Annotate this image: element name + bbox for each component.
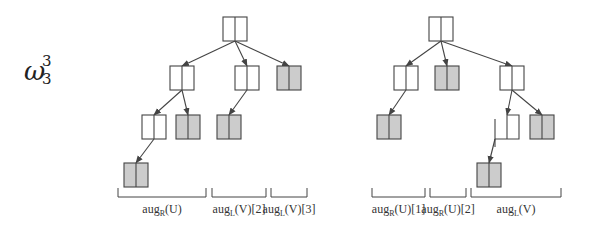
tree-edge-arrow xyxy=(489,139,495,163)
bracket-label-part: aug xyxy=(213,202,230,216)
tree-edge-arrow xyxy=(235,41,289,66)
bracket-label: augR(U)[1] xyxy=(372,202,425,218)
bracket-label: augR(U) xyxy=(142,202,181,218)
bracket-label: augL(V) xyxy=(497,202,536,218)
bracket-label-part: (U)[2] xyxy=(444,202,475,216)
tree-edge-arrow xyxy=(182,41,235,66)
bracket xyxy=(372,188,425,197)
tree-edge-arrow xyxy=(512,90,542,115)
bracket-label-part: aug xyxy=(372,202,389,216)
bracket xyxy=(212,188,266,197)
tree-edge-arrow xyxy=(441,41,512,66)
tree-edge-arrow xyxy=(136,139,154,163)
tree-edge-arrow xyxy=(406,41,441,66)
bracket xyxy=(430,188,466,197)
bracket-label: augL(V)[3] xyxy=(263,202,316,218)
tree-edge-arrow xyxy=(235,41,247,66)
bracket-label-part: aug xyxy=(497,202,514,216)
bracket-label-part: (V)[3] xyxy=(285,202,316,216)
bracket-label-part: (V) xyxy=(519,202,536,216)
bracket-label: augL(V)[2] xyxy=(213,202,266,218)
bracket xyxy=(271,188,307,197)
bracket xyxy=(118,188,206,197)
tree-edge-arrow xyxy=(154,90,182,115)
tree-edge-arrow xyxy=(507,90,512,115)
tree-augmentation-figure: ω 3 3 augR(U)augL(V)[2]augL(V)[3]augR(U)… xyxy=(0,0,591,228)
bracket xyxy=(471,188,561,197)
tree-edge-arrow xyxy=(441,41,447,66)
tree-edge-arrow xyxy=(389,90,406,115)
tree-edge-arrow xyxy=(182,90,188,115)
bracket-label-part: aug xyxy=(421,202,438,216)
bracket-label-part: aug xyxy=(142,202,159,216)
bracket-label: augR(U)[2] xyxy=(421,202,474,218)
tree-diagram xyxy=(0,0,591,228)
tree-edge-arrow xyxy=(229,90,247,115)
bracket-label-part: (U) xyxy=(165,202,182,216)
bracket-label-part: aug xyxy=(263,202,280,216)
bracket-label-part: (V)[2] xyxy=(235,202,266,216)
